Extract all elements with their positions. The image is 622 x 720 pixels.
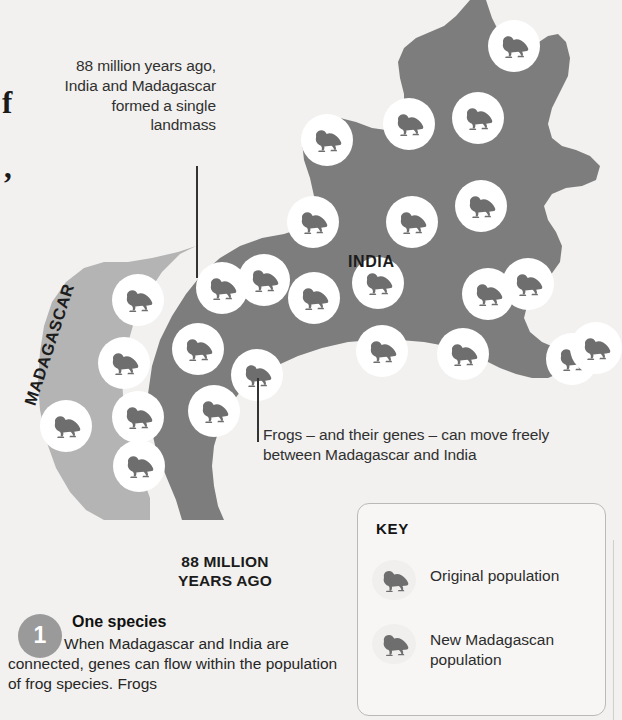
frog-icon [297,284,331,312]
frog-marker [288,272,340,324]
frog-icon [49,412,83,440]
frog-marker [570,322,622,374]
frog-marker [452,92,504,144]
key-legend-label: Original population [430,560,559,586]
key-legend-box: KEY Original population New Madagascan p… [357,503,606,716]
frog-icon [181,335,215,363]
annotation-landmass-leader-line [196,166,198,278]
frog-marker [386,196,438,248]
frog-icon [296,208,330,236]
frog-icon [247,266,281,294]
frog-icon [361,269,395,297]
frog-icon [464,192,498,220]
frog-icon [122,452,156,480]
frog-marker [40,400,92,452]
frog-marker [98,337,150,389]
frog-marker [113,440,165,492]
frog-icon [446,340,480,368]
frog-icon [378,567,411,594]
map-label-india: INDIA [348,253,395,271]
frog-marker [488,20,540,72]
key-legend-item: New Madagascan population [372,624,602,669]
key-title: KEY [376,520,409,537]
era-heading-line2: YEARS AGO [120,572,330,591]
page-column-rule [613,540,614,720]
frog-marker [196,262,248,314]
frog-icon [121,403,155,431]
key-legend-item: Original population [372,560,559,600]
frog-icon [197,397,231,425]
frog-marker [437,328,489,380]
frog-icon [121,286,155,314]
cropped-text-fragment-f: f [2,85,12,121]
key-swatch [372,560,416,600]
frog-marker [455,180,507,232]
annotation-gene-flow-leader-line [257,378,259,442]
annotation-gene-flow: Frogs – and their genes – can move freel… [263,425,593,465]
frog-icon [471,280,505,308]
step-block: 1 One species When Madagascar and India … [8,612,344,694]
frog-marker [301,114,353,166]
frog-icon [365,337,399,365]
key-swatch [372,624,416,664]
frog-icon [579,334,613,362]
frog-icon [205,274,239,302]
frog-marker [188,385,240,437]
era-heading-line1: 88 MILLION [120,553,330,572]
key-legend-label: New Madagascan population [430,624,602,669]
era-heading: 88 MILLION YEARS AGO [120,553,330,591]
frog-marker [383,98,435,150]
frog-icon [461,104,495,132]
frog-marker [172,323,224,375]
frog-marker [112,391,164,443]
frog-marker [112,274,164,326]
frog-icon [511,270,545,298]
frog-icon [497,32,531,60]
annotation-landmass: 88 million years ago, India and Madagasc… [48,56,216,135]
frog-icon [107,349,141,377]
frog-icon [395,208,429,236]
frog-marker [502,258,554,310]
frog-icon [392,110,426,138]
cropped-text-fragment-comma: , [4,150,12,186]
step-title: One species [72,612,344,633]
frog-marker [356,325,408,377]
frog-icon [310,126,344,154]
frog-marker [287,196,339,248]
step-number-badge: 1 [18,614,62,658]
frog-icon [378,631,411,658]
